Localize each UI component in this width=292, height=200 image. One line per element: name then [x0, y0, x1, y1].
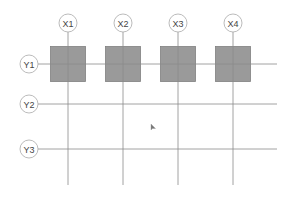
grid-bubble-x2: X2 — [114, 14, 132, 32]
vertical-grid-lines — [68, 32, 233, 185]
grid-label: Y1 — [23, 60, 34, 70]
row-bubbles: Y1Y2Y3 — [20, 55, 38, 158]
grid-bubble-x1: X1 — [59, 14, 77, 32]
column-bubbles: X1X2X3X4 — [59, 14, 242, 32]
grid-bubble-y1: Y1 — [20, 55, 38, 73]
grid-label: Y3 — [23, 145, 34, 155]
grid-label: X2 — [117, 19, 128, 29]
grid-label: X4 — [227, 19, 238, 29]
grid-bubble-y3: Y3 — [20, 140, 38, 158]
grid-diagram: X1X2X3X4 Y1Y2Y3 — [0, 0, 292, 200]
mouse-pointer-icon — [151, 124, 156, 130]
grid-label: X1 — [62, 19, 73, 29]
grid-bubble-x3: X3 — [169, 14, 187, 32]
grid-bubble-y2: Y2 — [20, 95, 38, 113]
grid-bubble-x4: X4 — [224, 14, 242, 32]
grid-label: X3 — [172, 19, 183, 29]
grid-label: Y2 — [23, 100, 34, 110]
